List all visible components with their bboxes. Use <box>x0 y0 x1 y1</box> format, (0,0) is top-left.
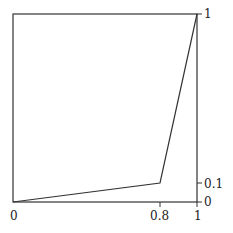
x-tick-label: 0 <box>10 210 18 222</box>
y-tick-label: 0.1 <box>204 178 223 190</box>
data-line <box>13 14 197 202</box>
y-tick-label: 0 <box>204 196 212 208</box>
plot-frame <box>13 14 197 202</box>
y-tick-label: 1 <box>204 8 212 20</box>
plot-area <box>0 0 233 233</box>
x-tick-label: 0.8 <box>150 210 169 222</box>
x-tick-label: 1 <box>194 210 202 222</box>
